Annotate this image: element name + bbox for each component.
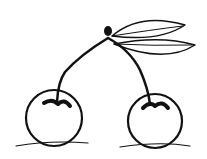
lower-leaf-vein <box>114 44 192 45</box>
cherries-drawing <box>0 0 207 159</box>
right-shadow <box>120 144 190 147</box>
left-cherry-dimple <box>44 101 70 106</box>
right-cherry <box>128 94 182 148</box>
stem-knob <box>104 26 112 36</box>
right-cherry-dimple <box>143 103 168 108</box>
upper-leaf <box>112 20 185 37</box>
right-stem <box>108 38 150 104</box>
left-cherry <box>26 90 82 146</box>
